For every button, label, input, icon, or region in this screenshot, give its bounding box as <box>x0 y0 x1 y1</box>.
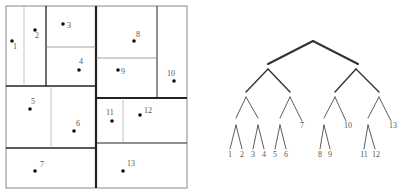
point-label: 2 <box>35 31 39 40</box>
leaf-label: 11 <box>360 150 368 159</box>
tree-leaf-labels: 12345678910111213 <box>228 121 397 159</box>
kd-tree-figure: 12345678910111213 12345678910111213 <box>0 0 401 195</box>
leaf-label: 8 <box>318 150 322 159</box>
tree-edge <box>320 125 324 149</box>
leaf-label: 13 <box>389 121 397 130</box>
tree-edge <box>335 97 346 121</box>
tree-edge <box>324 97 335 118</box>
tree-edge <box>253 125 258 149</box>
leaf-label: 3 <box>251 150 255 159</box>
point-label: 4 <box>79 57 83 66</box>
data-point <box>172 79 176 83</box>
tree-edge <box>368 97 379 118</box>
point-label: 8 <box>136 30 140 39</box>
leaf-label: 7 <box>300 121 304 130</box>
tree-edge <box>379 97 391 121</box>
tree-edge <box>268 41 313 64</box>
tree-edge <box>275 125 280 149</box>
data-point <box>77 68 81 72</box>
point-label: 6 <box>76 119 80 128</box>
tree-edge <box>324 125 330 149</box>
data-point <box>121 169 125 173</box>
leaf-label: 12 <box>372 150 380 159</box>
data-point <box>110 119 114 123</box>
data-point <box>28 107 32 111</box>
tree-edge <box>335 69 356 92</box>
data-points: 12345678910111213 <box>10 21 176 173</box>
point-label: 9 <box>121 67 125 76</box>
leaf-label: 2 <box>240 150 244 159</box>
tree-edge <box>246 69 268 92</box>
leaf-label: 4 <box>262 150 266 159</box>
point-label: 10 <box>167 69 175 78</box>
data-point <box>132 39 136 43</box>
data-point <box>138 113 142 117</box>
point-label: 1 <box>13 42 17 51</box>
data-point <box>116 68 120 72</box>
tree-edge <box>268 69 290 92</box>
point-label: 13 <box>127 159 135 168</box>
leaf-label: 1 <box>228 150 232 159</box>
tree-edge <box>356 69 379 92</box>
data-point <box>61 22 65 26</box>
kd-tree <box>230 41 391 149</box>
point-label: 12 <box>144 106 152 115</box>
tree-edge <box>368 125 375 149</box>
data-point <box>72 129 76 133</box>
point-label: 11 <box>106 108 114 117</box>
point-label: 7 <box>40 160 44 169</box>
point-label: 3 <box>67 21 71 30</box>
tree-edge <box>364 125 368 149</box>
tree-edge <box>280 97 290 118</box>
leaf-label: 6 <box>284 150 288 159</box>
tree-edge <box>258 125 264 149</box>
tree-edge <box>280 125 286 149</box>
point-label: 5 <box>31 97 35 106</box>
tree-edge <box>246 97 258 118</box>
tree-edge <box>236 125 242 149</box>
leaf-label: 9 <box>328 150 332 159</box>
data-point <box>33 169 37 173</box>
leaf-label: 10 <box>344 121 352 130</box>
tree-edge <box>313 41 358 64</box>
leaf-label: 5 <box>273 150 277 159</box>
tree-edge <box>230 125 236 149</box>
tree-edge <box>236 97 246 118</box>
tree-edge <box>290 97 302 121</box>
